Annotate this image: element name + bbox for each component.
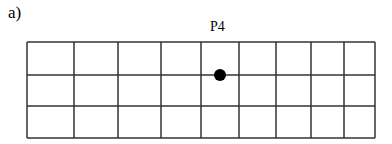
grid-diagram [0,0,392,144]
point-p4-marker [214,69,226,81]
grid-lines [27,42,375,138]
